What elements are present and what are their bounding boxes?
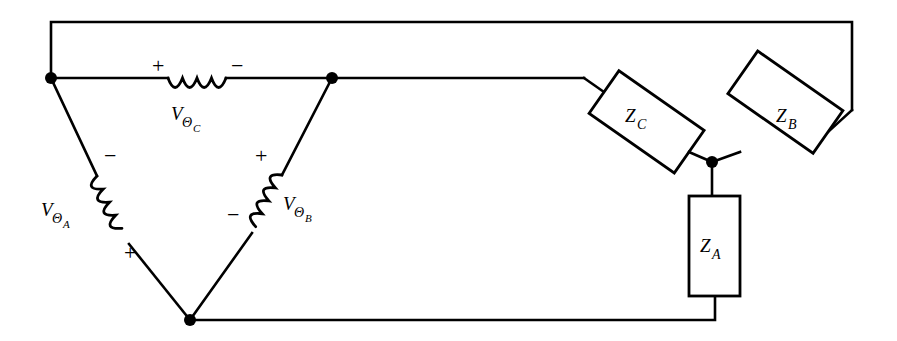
label-impedance-c-main: Z: [625, 105, 636, 126]
impedance-box-a: [689, 196, 740, 296]
wire-left-lower: [129, 244, 190, 320]
inductor-coil-c: [168, 78, 226, 88]
node-top-middle: [326, 72, 338, 84]
label-source-c-phase: C: [193, 122, 201, 134]
polarity-b-lower: −: [227, 202, 239, 227]
polarity-a-upper: −: [104, 143, 116, 168]
label-source-b-phase: B: [305, 212, 312, 224]
node-star-center: [706, 156, 718, 168]
polarity-a-lower: +: [124, 240, 136, 265]
impedance-box-b: [728, 51, 843, 153]
polarity-c-right: −: [231, 53, 243, 78]
label-source-a-phase: A: [62, 218, 70, 230]
label-source-a-theta: Θ: [52, 211, 62, 226]
label-source-b: V Θ B: [283, 193, 312, 224]
circuit-canvas: + − V Θ C − + V Θ A + − V Θ B Z C Z: [0, 0, 897, 341]
wire-right-lower: [190, 233, 252, 320]
label-source-c-theta: Θ: [182, 115, 192, 130]
polarity-c-left: +: [152, 53, 164, 78]
polarity-b-upper: +: [255, 143, 267, 168]
label-impedance-a-sub: A: [711, 247, 721, 262]
wire-right-upper: [282, 78, 332, 175]
inductor-coil-b: [247, 171, 282, 227]
inductor-coil-a: [88, 176, 122, 232]
label-impedance-c-sub: C: [637, 117, 647, 132]
label-impedance-b-sub: B: [788, 117, 797, 132]
label-impedance-b-main: Z: [776, 105, 787, 126]
label-impedance-a-main: Z: [700, 235, 711, 256]
node-top-left: [45, 72, 57, 84]
wire-left-upper: [51, 78, 97, 176]
impedance-box-c: [589, 71, 704, 173]
label-source-a: V Θ A: [41, 199, 70, 230]
circuit-diagram: + − V Θ C − + V Θ A + − V Θ B Z C Z: [0, 0, 897, 341]
wire-zc-top-lead: [584, 78, 604, 92]
label-source-b-theta: Θ: [294, 205, 304, 220]
node-bottom: [184, 314, 196, 326]
wire-bottom-return: [190, 296, 715, 320]
label-source-c: V Θ C: [171, 103, 201, 134]
